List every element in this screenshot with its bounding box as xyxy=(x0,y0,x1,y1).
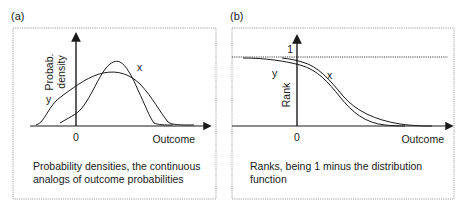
panel-b: (b) 1 Rank y x 0 Outcome Ranks, being 1 … xyxy=(230,10,454,199)
panel-a-curve-x-label: x xyxy=(137,61,143,73)
panel-b-curve-x xyxy=(282,58,432,126)
panel-a-curve-y-label: y xyxy=(46,93,52,105)
panel-a: (a) Probab. density y x 0 Outcome Probab… xyxy=(11,10,216,199)
figure-canvas: (a) Probab. density y x 0 Outcome Probab… xyxy=(0,0,465,211)
panel-b-top-tick-label: 1 xyxy=(287,43,293,55)
panel-a-curve-x xyxy=(60,61,173,125)
panel-b-xlabel: Outcome xyxy=(401,133,444,145)
panel-a-ylabel-line2: density xyxy=(55,55,67,89)
panel-b-caption-line1: Ranks, being 1 minus the distribution xyxy=(250,160,422,172)
panel-a-caption-line2: analogs of outcome probabilities xyxy=(33,173,184,185)
panel-b-curve-y xyxy=(243,58,405,126)
panel-a-xlabel: Outcome xyxy=(152,133,195,145)
panel-b-origin-label: 0 xyxy=(294,131,300,143)
panel-a-origin-label: 0 xyxy=(73,131,79,143)
panel-b-curve-x-label: x xyxy=(327,69,333,81)
panel-b-curve-y-label: y xyxy=(272,67,278,79)
panel-b-caption-line2: function xyxy=(250,173,287,185)
panel-a-ylabel-line1: Probab. xyxy=(43,54,55,91)
panel-a-caption-line1: Probability densities, the continuous xyxy=(33,160,201,172)
panel-a-tag: (a) xyxy=(11,10,24,22)
panel-b-tag: (b) xyxy=(230,10,243,22)
panel-b-ylabel: Rank xyxy=(280,82,292,107)
